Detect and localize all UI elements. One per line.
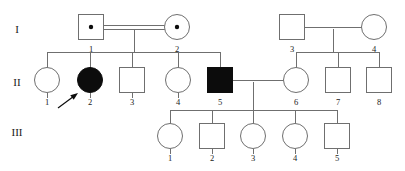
- individual-symbols-layer: [35, 15, 392, 149]
- male-square-ii-5[interactable]: [208, 68, 233, 93]
- individual-number-ii-3: 3: [130, 97, 134, 107]
- male-square-iii-5[interactable]: [325, 124, 350, 149]
- individual-number-iii-3: 3: [251, 153, 255, 163]
- female-circle-i-4[interactable]: [362, 15, 387, 40]
- individual-iii-2[interactable]: [200, 124, 225, 149]
- individual-i-4[interactable]: [362, 15, 387, 40]
- carrier-dot-icon-i-1: [89, 25, 93, 29]
- individual-number-ii-1: 1: [45, 97, 49, 107]
- individual-number-iii-5: 5: [335, 153, 339, 163]
- individual-number-ii-4: 4: [176, 97, 181, 107]
- individual-number-iii-1: 1: [168, 153, 172, 163]
- individual-iii-3[interactable]: [241, 124, 266, 149]
- individual-ii-1[interactable]: [35, 68, 60, 93]
- individual-ii-5[interactable]: [208, 68, 233, 93]
- individual-number-ii-6: 6: [294, 97, 298, 107]
- individual-number-ii-2: 2: [88, 97, 92, 107]
- pedigree-chart: 12341234567812345IIIIII: [0, 0, 405, 171]
- generation-3-label: III: [12, 126, 23, 138]
- individual-number-ii-5: 5: [218, 97, 222, 107]
- female-circle-ii-4[interactable]: [166, 68, 191, 93]
- pedigree-canvas: 12341234567812345IIIIII: [0, 0, 405, 171]
- proband-arrow: [58, 93, 78, 108]
- mating-I1-I2: [104, 25, 165, 29]
- female-circle-ii-1[interactable]: [35, 68, 60, 93]
- individual-number-i-1: 1: [89, 44, 93, 54]
- female-circle-ii-2[interactable]: [78, 68, 103, 93]
- individual-number-ii-7: 7: [336, 97, 340, 107]
- individual-ii-6[interactable]: [284, 68, 309, 93]
- male-square-ii-7[interactable]: [326, 68, 351, 93]
- sibship-generation-3: [170, 82, 337, 124]
- individual-ii-3[interactable]: [120, 68, 145, 93]
- individual-number-iii-2: 2: [210, 153, 214, 163]
- male-square-ii-8[interactable]: [367, 68, 392, 93]
- individual-ii-7[interactable]: [326, 68, 351, 93]
- individual-i-3[interactable]: [280, 15, 305, 40]
- female-circle-iii-3[interactable]: [241, 124, 266, 149]
- individual-i-1[interactable]: [79, 15, 104, 40]
- individual-ii-2[interactable]: [78, 68, 103, 93]
- individual-iii-5[interactable]: [325, 124, 350, 149]
- sibship-generation-2-left: [47, 29, 220, 68]
- proband-arrow-head-icon: [70, 93, 78, 100]
- male-square-iii-2[interactable]: [200, 124, 225, 149]
- individual-number-i-2: 2: [175, 44, 179, 54]
- female-circle-iii-1[interactable]: [158, 124, 183, 149]
- male-square-ii-3[interactable]: [120, 68, 145, 93]
- individual-number-i-3: 3: [290, 44, 294, 54]
- individual-i-2[interactable]: [165, 15, 190, 40]
- female-circle-ii-6[interactable]: [284, 68, 309, 93]
- carrier-dot-icon-i-2: [175, 25, 179, 29]
- individual-ii-8[interactable]: [367, 68, 392, 93]
- male-square-i-3[interactable]: [280, 15, 305, 40]
- individual-number-iii-4: 4: [293, 153, 298, 163]
- generation-1-label: I: [15, 23, 19, 35]
- individual-iii-1[interactable]: [158, 124, 183, 149]
- female-circle-iii-4[interactable]: [283, 124, 308, 149]
- generation-2-label: II: [13, 76, 21, 88]
- individual-number-ii-8: 8: [377, 97, 381, 107]
- individual-iii-4[interactable]: [283, 124, 308, 149]
- individual-ii-4[interactable]: [166, 68, 191, 93]
- proband-arrow-shaft: [58, 96, 74, 108]
